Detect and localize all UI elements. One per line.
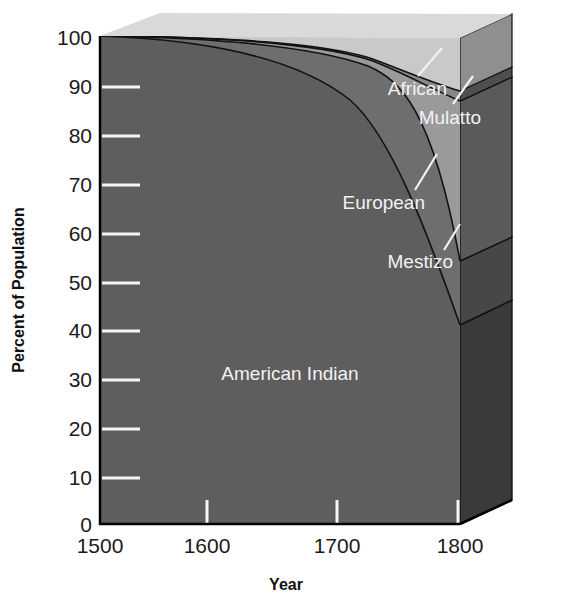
y-tick-labels: 100 90 80 70 60 50 40 30 20 10 0: [57, 26, 92, 536]
x-tick-labels: 1500 1600 1700 1800: [77, 534, 484, 557]
y-tick-50: 50: [69, 271, 92, 294]
y-tick-20: 20: [69, 417, 92, 440]
x-tick-1700: 1700: [314, 534, 361, 557]
side-face-european: [460, 77, 512, 261]
x-axis-title: Year: [269, 576, 303, 593]
chart-container: 100 90 80 70 60 50 40 30 20 10 0 1500 16…: [0, 0, 568, 612]
y-axis-title: Percent of Population: [10, 207, 27, 372]
band-label-american-indian: American Indian: [221, 363, 358, 384]
x-tick-1500: 1500: [77, 534, 124, 557]
y-tick-60: 60: [69, 222, 92, 245]
side-face-american-indian: [460, 300, 512, 524]
y-tick-70: 70: [69, 173, 92, 196]
stacked-bands: [100, 36, 460, 524]
x-tick-1600: 1600: [184, 534, 231, 557]
stacked-area-chart: 100 90 80 70 60 50 40 30 20 10 0 1500 16…: [0, 0, 568, 612]
y-tick-80: 80: [69, 124, 92, 147]
y-tick-90: 90: [69, 75, 92, 98]
y-tick-30: 30: [69, 368, 92, 391]
y-tick-0: 0: [80, 513, 92, 536]
y-tick-10: 10: [69, 466, 92, 489]
top-face: [100, 13, 512, 38]
band-label-european: European: [343, 192, 425, 213]
band-label-african: African: [388, 78, 447, 99]
y-tick-100: 100: [57, 26, 92, 49]
band-label-mestizo: Mestizo: [388, 251, 453, 272]
y-tick-40: 40: [69, 319, 92, 342]
x-tick-1800: 1800: [437, 534, 484, 557]
band-label-mulatto: Mulatto: [419, 107, 481, 128]
